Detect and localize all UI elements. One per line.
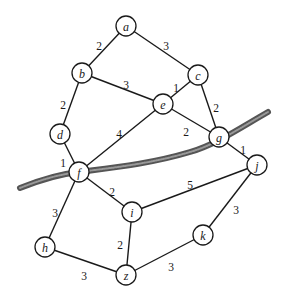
edge-weight-j-k: 3 xyxy=(233,204,239,216)
node-z: z xyxy=(116,265,136,285)
node-c: c xyxy=(188,65,208,85)
node-h: h xyxy=(35,237,55,257)
edge-weight-f-h: 3 xyxy=(52,207,58,219)
node-e: e xyxy=(153,94,173,114)
cut-line-texture xyxy=(20,112,268,188)
cut-curve xyxy=(20,112,268,188)
node-f: f xyxy=(69,162,89,182)
edge-weight-k-z: 3 xyxy=(168,261,174,273)
edge-weight-c-e: 1 xyxy=(173,82,179,94)
edge-weight-g-j: 1 xyxy=(240,144,246,156)
edge-weight-d-f: 1 xyxy=(60,157,66,169)
edge-weight-h-z: 3 xyxy=(81,270,87,282)
node-label: g xyxy=(216,131,222,145)
edge-weight-b-d: 2 xyxy=(60,99,66,111)
edge-weight-i-j: 5 xyxy=(187,179,193,191)
edge-weight-a-c: 3 xyxy=(163,40,169,52)
node-label: a xyxy=(123,20,129,34)
edge-weight-f-i: 2 xyxy=(109,186,115,198)
edge-weight-i-z: 2 xyxy=(117,239,123,251)
edge-weight-e-f: 4 xyxy=(116,128,122,140)
graph-diagram: 23321224112532333 abcdefghijkz xyxy=(0,0,288,307)
node-label: c xyxy=(195,69,201,83)
node-b: b xyxy=(72,63,92,83)
node-g: g xyxy=(209,127,229,147)
nodes-layer: abcdefghijkz xyxy=(35,16,267,285)
edge-k-z xyxy=(126,235,203,275)
edge-weight-a-b: 2 xyxy=(96,40,102,52)
node-label: b xyxy=(79,67,85,81)
node-label: e xyxy=(160,98,166,112)
node-k: k xyxy=(193,225,213,245)
edge-weight-e-g: 2 xyxy=(183,126,189,138)
edges-layer xyxy=(45,26,257,275)
node-j: j xyxy=(247,155,267,175)
edge-weight-b-e: 3 xyxy=(123,79,129,91)
edge-a-c xyxy=(126,26,198,75)
edge-weight-c-g: 2 xyxy=(213,102,219,114)
node-label: d xyxy=(57,128,64,142)
edge-f-h xyxy=(45,172,79,247)
node-a: a xyxy=(116,16,136,36)
node-label: z xyxy=(123,269,129,283)
node-i: i xyxy=(122,202,142,222)
node-label: i xyxy=(130,206,133,220)
node-label: h xyxy=(42,241,48,255)
node-d: d xyxy=(50,124,70,144)
node-label: k xyxy=(200,229,206,243)
